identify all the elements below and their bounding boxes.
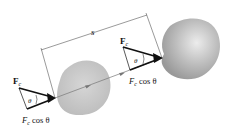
work-diagram: s Fc θ Fc cos θ Fc θ Fc cos θ bbox=[0, 0, 226, 137]
arrowhead-icon bbox=[47, 93, 56, 103]
force-label-final: Fc bbox=[120, 36, 129, 47]
component-label-initial: Fc cos θ bbox=[21, 115, 50, 126]
path-arrow-icon bbox=[119, 73, 125, 77]
force-label-initial: Fc bbox=[13, 76, 22, 87]
force-triangle-final bbox=[123, 47, 163, 70]
component-label-final: Fc cos θ bbox=[128, 76, 157, 87]
force-vector-initial bbox=[19, 88, 50, 97]
force-vector-final bbox=[123, 47, 156, 57]
displacement-label: s bbox=[91, 27, 95, 37]
force-triangle-initial bbox=[19, 88, 56, 109]
body-initial bbox=[57, 61, 110, 116]
arrowhead-icon bbox=[153, 53, 163, 63]
angle-label-initial: θ bbox=[28, 97, 32, 105]
body-final bbox=[162, 18, 220, 79]
angle-label-final: θ bbox=[134, 57, 138, 65]
